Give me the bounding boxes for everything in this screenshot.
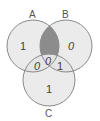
region-abc: 0 bbox=[45, 55, 52, 67]
venn-diagram: A B C 1 0 0 0 1 1 bbox=[0, 0, 100, 121]
region-a-only: 1 bbox=[20, 40, 26, 52]
region-c-only: 1 bbox=[46, 83, 52, 95]
region-b-only: 0 bbox=[68, 40, 75, 52]
set-label-c: C bbox=[45, 108, 52, 119]
region-bc-only: 1 bbox=[57, 60, 63, 72]
set-label-a: A bbox=[29, 9, 36, 20]
region-ac-only: 0 bbox=[34, 60, 41, 72]
set-label-b: B bbox=[62, 9, 69, 20]
